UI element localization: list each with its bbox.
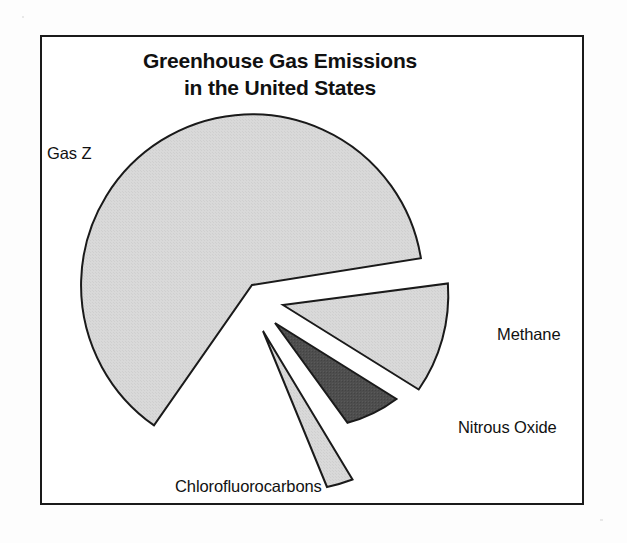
slice-label-methane: Methane: [497, 325, 561, 344]
slice-label-chlorofluorocarbons: Chlorofluorocarbons: [175, 477, 322, 496]
chart-title-line-2: in the United States: [70, 75, 490, 102]
slice-label-gas-z: Gas Z: [47, 144, 91, 163]
scan-artifact: [600, 519, 603, 521]
page-title: Greenhouse Gas Emissions in the United S…: [70, 48, 490, 102]
scan-artifact: [22, 16, 24, 18]
chart-title-line-1: Greenhouse Gas Emissions: [143, 49, 417, 72]
slice-label-nitrous-oxide: Nitrous Oxide: [458, 418, 557, 437]
figure-root: Greenhouse Gas Emissions in the United S…: [0, 0, 627, 543]
